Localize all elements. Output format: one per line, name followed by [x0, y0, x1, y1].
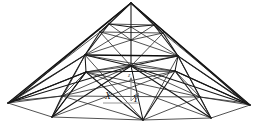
truss-wireframe-svg: X Y z [0, 0, 257, 126]
figure-canvas: X Y z [0, 0, 257, 126]
axis-label-x: X [104, 91, 112, 101]
left-wing-group [8, 32, 131, 117]
apex-spar-group [8, 3, 250, 105]
axis-label-z: z [127, 72, 131, 78]
